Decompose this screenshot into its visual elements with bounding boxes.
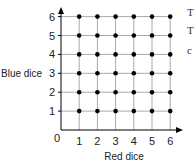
data-point [150,109,155,114]
x-axis-title: Red dice [104,151,144,162]
data-point [168,71,173,76]
cropped-text-fragment: T [187,24,194,36]
data-point [113,14,118,19]
data-point [168,14,173,19]
data-point [77,33,82,38]
data-point [113,109,118,114]
data-point [77,109,82,114]
data-point [77,90,82,95]
data-point [77,71,82,76]
x-tick-label: 1 [76,135,82,147]
data-point [95,14,100,19]
data-point [95,90,100,95]
data-point [95,109,100,114]
x-tick-label: 2 [94,135,100,147]
data-point [132,90,137,95]
y-tick-label: 1 [49,105,55,117]
y-tick-label: 2 [49,86,55,98]
y-tick-label: 6 [49,11,55,23]
x-tick-label: 5 [149,135,155,147]
axes [58,7,183,133]
y-axis-arrow-icon [58,7,64,14]
sample-space-chart: 123456 123456 0 Red dice Blue dice [0,0,195,168]
data-point [150,71,155,76]
data-point [113,90,118,95]
data-point [95,33,100,38]
y-tick-label: 3 [49,67,55,79]
data-points [77,14,173,113]
data-point [150,90,155,95]
cropped-text-fragment: T [187,6,194,18]
y-axis-title: Blue dice [1,68,43,79]
x-tick-label: 6 [167,135,173,147]
data-point [132,14,137,19]
x-tick-label: 4 [131,135,137,147]
x-axis-arrow-icon [176,127,183,133]
data-point [132,109,137,114]
data-point [95,52,100,57]
origin-label: 0 [54,132,60,144]
data-point [77,14,82,19]
data-point [77,52,82,57]
data-point [168,90,173,95]
cropped-text-fragment: c [187,44,192,56]
data-point [168,109,173,114]
data-point [168,33,173,38]
data-point [150,52,155,57]
data-point [132,33,137,38]
data-point [113,71,118,76]
x-tick-labels: 123456 [76,135,173,147]
data-point [150,14,155,19]
y-tick-label: 4 [49,48,55,60]
x-tick-label: 3 [113,135,119,147]
data-point [113,33,118,38]
y-tick-labels: 123456 [49,11,55,118]
data-point [150,33,155,38]
data-point [132,71,137,76]
data-point [132,52,137,57]
data-point [168,52,173,57]
y-tick-label: 5 [49,30,55,42]
data-point [113,52,118,57]
data-point [95,71,100,76]
